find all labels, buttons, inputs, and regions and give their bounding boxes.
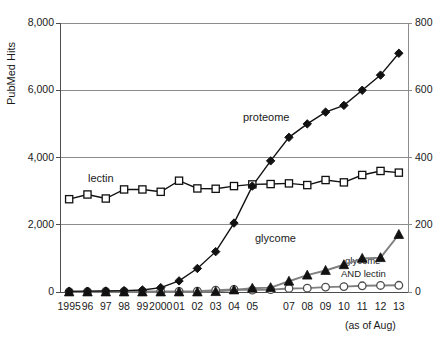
square-marker — [304, 181, 311, 188]
marker-lectin-6 — [175, 177, 182, 184]
marker-lectin-4 — [139, 186, 146, 193]
square-marker — [359, 171, 366, 178]
marker-glycome-18 — [394, 230, 404, 239]
marker-proteome-6 — [175, 277, 183, 285]
marker-lectin-12 — [285, 180, 292, 187]
square-marker — [267, 180, 274, 187]
square-marker — [395, 169, 402, 176]
square-marker — [121, 186, 128, 193]
square-marker — [322, 176, 329, 183]
marker-lectin-3 — [121, 186, 128, 193]
triangle-marker — [394, 230, 404, 239]
marker-proteome-14 — [321, 108, 329, 116]
diamond-marker — [175, 277, 183, 285]
square-marker — [285, 180, 292, 187]
marker-lectin-18 — [395, 169, 402, 176]
marker-proteome-9 — [230, 219, 238, 227]
square-marker — [157, 188, 164, 195]
marker-lectin-17 — [377, 167, 384, 174]
circle-marker — [322, 283, 330, 291]
marker-lectin-7 — [194, 185, 201, 192]
marker-glycome-and-lectin-12 — [285, 285, 293, 293]
marker-lectin-9 — [230, 182, 237, 189]
marker-glycome-and-lectin-14 — [322, 283, 330, 291]
marker-lectin-1 — [84, 191, 91, 198]
square-marker — [84, 191, 91, 198]
square-marker — [139, 186, 146, 193]
marker-lectin-14 — [322, 176, 329, 183]
square-marker — [66, 196, 73, 203]
square-marker — [230, 182, 237, 189]
circle-marker — [340, 283, 348, 291]
series-line-glycome — [69, 235, 399, 292]
marker-lectin-15 — [340, 179, 347, 186]
square-marker — [175, 177, 182, 184]
circle-marker — [303, 284, 311, 292]
square-marker — [377, 167, 384, 174]
marker-lectin-11 — [267, 180, 274, 187]
square-marker — [212, 185, 219, 192]
marker-lectin-8 — [212, 185, 219, 192]
circle-marker — [377, 282, 385, 290]
marker-glycome-and-lectin-17 — [377, 282, 385, 290]
marker-lectin-2 — [102, 195, 109, 202]
marker-lectin-13 — [304, 181, 311, 188]
circle-marker — [358, 282, 366, 290]
plot-canvas — [0, 0, 448, 345]
marker-lectin-16 — [359, 171, 366, 178]
diamond-marker — [230, 219, 238, 227]
circle-marker — [285, 285, 293, 293]
marker-glycome-and-lectin-15 — [340, 283, 348, 291]
circle-marker — [395, 281, 403, 289]
diamond-marker — [321, 108, 329, 116]
series-line-proteome — [69, 53, 399, 291]
square-marker — [194, 185, 201, 192]
marker-glycome-and-lectin-13 — [303, 284, 311, 292]
marker-glycome-and-lectin-16 — [358, 282, 366, 290]
marker-lectin-0 — [66, 196, 73, 203]
marker-glycome-and-lectin-18 — [395, 281, 403, 289]
pubmed-hits-chart: PubMed Hits 02,0004,0006,0008,000 020040… — [0, 0, 448, 345]
square-marker — [340, 179, 347, 186]
square-marker — [102, 195, 109, 202]
marker-lectin-5 — [157, 188, 164, 195]
